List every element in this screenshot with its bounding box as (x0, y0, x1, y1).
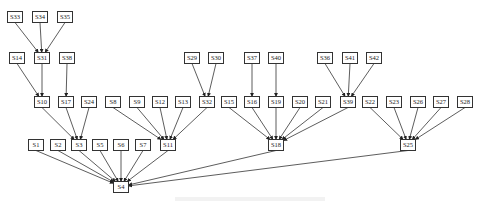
caption-bar (175, 197, 325, 201)
node-s33: S33 (8, 12, 23, 23)
node-s21: S21 (316, 97, 331, 108)
node-label: S32 (202, 98, 212, 105)
node-label: S10 (37, 98, 47, 105)
node-s18: S18 (269, 140, 284, 151)
node-label: S42 (369, 54, 379, 61)
node-s2: S2 (51, 140, 66, 151)
node-label: S18 (271, 141, 281, 148)
node-label: S4 (118, 183, 126, 190)
edge-s20-to-s18 (279, 108, 300, 140)
node-s23: S23 (387, 97, 402, 108)
node-s37: S37 (245, 53, 260, 64)
node-label: S36 (320, 54, 331, 61)
edge-s25-to-s4 (129, 151, 409, 186)
node-s25: S25 (401, 140, 416, 151)
node-s31: S31 (35, 53, 50, 64)
node-label: S27 (436, 98, 447, 105)
edge-s18-to-s4 (129, 151, 277, 185)
node-label: S3 (76, 141, 83, 148)
edge-s15-to-s18 (229, 108, 270, 140)
node-label: S16 (247, 98, 258, 105)
edge-s8-to-s11 (113, 108, 161, 140)
node-label: S35 (60, 13, 70, 20)
node-s17: S17 (59, 97, 74, 108)
node-label: S5 (97, 141, 104, 148)
edge-s24-to-s3 (80, 108, 89, 140)
node-s36: S36 (318, 53, 333, 64)
node-s15: S15 (222, 97, 237, 108)
node-s9: S9 (130, 97, 145, 108)
node-label: S29 (187, 54, 197, 61)
edge-s35-to-s31 (45, 23, 65, 53)
node-s4: S4 (114, 182, 129, 193)
node-label: S6 (118, 141, 126, 148)
node-label: S20 (295, 98, 305, 105)
node-s20: S20 (293, 97, 308, 108)
node-s26: S26 (411, 97, 426, 108)
edge-s38-to-s17 (66, 64, 67, 97)
node-label: S25 (403, 141, 413, 148)
node-s5: S5 (93, 140, 108, 151)
edge-s2-to-s4 (58, 151, 114, 183)
node-label: S31 (37, 54, 47, 61)
node-s1: S1 (29, 140, 44, 151)
node-label: S38 (62, 54, 72, 61)
edge-s22-to-s25 (370, 108, 403, 140)
node-label: S33 (10, 13, 20, 20)
edge-s5-to-s4 (100, 151, 118, 182)
node-s41: S41 (343, 53, 358, 64)
edge-s17-to-s3 (66, 108, 77, 140)
node-s11: S11 (161, 140, 176, 151)
node-s8: S8 (106, 97, 121, 108)
node-label: S19 (271, 98, 281, 105)
node-s7: S7 (136, 140, 151, 151)
edge-s41-to-s39 (348, 64, 350, 97)
node-s22: S22 (363, 97, 378, 108)
node-label: S39 (343, 98, 353, 105)
node-s12: S12 (153, 97, 168, 108)
node-label: S21 (318, 98, 328, 105)
node-s40: S40 (269, 53, 284, 64)
node-label: S14 (12, 54, 23, 61)
node-label: S34 (35, 13, 46, 20)
node-s35: S35 (58, 12, 73, 23)
node-label: S37 (247, 54, 258, 61)
edge-s13-to-s11 (170, 108, 183, 140)
edge-s23-to-s25 (394, 108, 406, 140)
node-s42: S42 (367, 53, 382, 64)
node-label: S28 (460, 98, 470, 105)
edge-s32-to-s11 (173, 108, 207, 140)
node-label: S11 (163, 141, 173, 148)
node-label: S41 (345, 54, 355, 61)
node-label: S22 (365, 98, 375, 105)
node-s30: S30 (209, 53, 224, 64)
edge-s16-to-s18 (252, 108, 273, 140)
node-s19: S19 (269, 97, 284, 108)
edge-s14-to-s10 (17, 64, 39, 97)
edge-s33-to-s31 (15, 23, 38, 53)
edge-s39-to-s18 (284, 108, 349, 141)
node-label: S2 (55, 141, 62, 148)
node-s38: S38 (60, 53, 75, 64)
node-label: S17 (61, 98, 72, 105)
node-label: S23 (389, 98, 399, 105)
node-label: S40 (271, 54, 281, 61)
dependency-tree-diagram: S33S34S35S14S31S38S29S30S37S40S36S41S42S… (0, 0, 477, 203)
node-s39: S39 (341, 97, 356, 108)
node-s27: S27 (434, 97, 449, 108)
edge-s9-to-s11 (137, 108, 164, 140)
edge-s12-to-s11 (160, 108, 167, 140)
node-s10: S10 (35, 97, 50, 108)
node-label: S13 (178, 98, 188, 105)
edge-s34-to-s31 (40, 23, 42, 53)
node-label: S8 (110, 98, 117, 105)
node-s28: S28 (458, 97, 473, 108)
node-layer: S33S34S35S14S31S38S29S30S37S40S36S41S42S… (8, 12, 473, 193)
node-s13: S13 (176, 97, 191, 108)
node-s16: S16 (245, 97, 260, 108)
edge-s30-to-s32 (208, 64, 216, 97)
node-s14: S14 (10, 53, 25, 64)
node-s3: S3 (72, 140, 87, 151)
node-s29: S29 (185, 53, 200, 64)
node-label: S12 (155, 98, 165, 105)
